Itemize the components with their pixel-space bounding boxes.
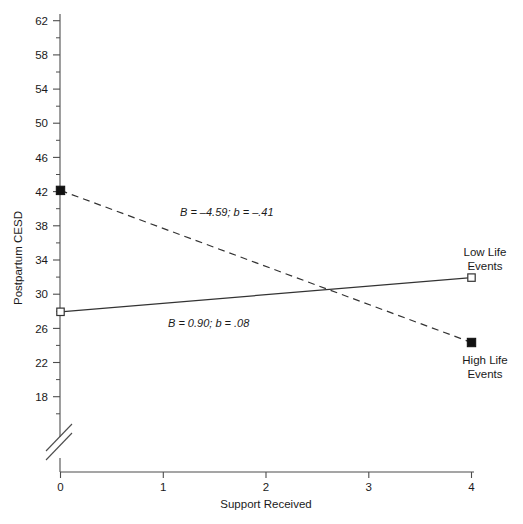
y-tick-label: 18 [35,391,48,403]
x-axis: 0 1 2 3 4 Support Received [57,472,475,510]
series-label-line-1: High Life [462,354,507,366]
y-tick-label: 46 [35,152,48,164]
y-tick-label: 30 [35,288,48,300]
y-axis: 62 58 54 50 46 42 38 34 30 26 22 18 Post… [12,14,72,472]
y-tick-label: 26 [35,323,48,335]
y-tick-label: 34 [35,254,48,266]
annotation-low-life-events: B = 0.90; b = .08 [168,317,250,329]
x-axis-title: Support Received [220,498,311,510]
y-axis-break-icon [46,424,72,460]
y-tick-label: 22 [35,357,48,369]
series-label-low-life-events: Low Life Events [464,246,507,272]
y-tick-labels: 62 58 54 50 46 42 38 34 30 26 22 18 [35,15,48,403]
data-point-marker-open-square [468,274,475,281]
series-label-line-1: Low Life [464,246,507,258]
y-tick-label: 50 [35,117,48,129]
series-label-line-2: Events [467,260,502,272]
series-label-line-2: Events [467,368,502,380]
series-low-life-events [57,274,475,316]
y-tick-label: 38 [35,220,48,232]
x-tick-label: 2 [263,481,269,493]
data-point-marker-open-square [57,308,64,315]
x-tick-label: 1 [160,481,166,493]
data-point-marker-filled-square [467,338,475,346]
y-tick-label: 62 [35,15,48,27]
x-tick-labels: 0 1 2 3 4 [57,481,475,493]
data-point-marker-filled-square [56,186,64,194]
y-tick-label: 58 [35,49,48,61]
x-tick-label: 4 [468,481,475,493]
x-tick-label: 3 [366,481,372,493]
series-line-low-life-events [61,278,472,312]
x-major-ticks [61,472,472,478]
x-tick-label: 0 [57,481,63,493]
y-axis-title: Postpartum CESD [12,211,24,305]
y-tick-label: 54 [35,83,48,95]
annotation-high-life-events: B = –4.59; b = –.41 [180,206,274,218]
chart-figure: 62 58 54 50 46 42 38 34 30 26 22 18 Post… [0,0,523,524]
series-label-high-life-events: High Life Events [462,354,507,380]
y-tick-label: 42 [35,186,48,198]
interaction-plot: 62 58 54 50 46 42 38 34 30 26 22 18 Post… [0,0,523,524]
